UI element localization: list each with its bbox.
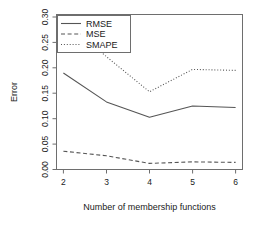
line-chart: 0.00 0.05 0.10 0.15 0.20 0.25 0.30 Error… (0, 0, 259, 226)
chart-screenshot: 0.00 0.05 0.10 0.15 0.20 0.25 0.30 Error… (0, 0, 259, 226)
x-axis-tick-labels: 2 3 4 5 6 (61, 177, 238, 187)
y-tick-label: 0.30 (40, 8, 50, 25)
x-tick-label: 4 (147, 177, 152, 187)
series-line-mse (63, 151, 235, 163)
y-axis-title: Error (9, 82, 19, 102)
x-tick-label: 6 (233, 177, 238, 187)
x-axis-title: Number of membership functions (83, 202, 216, 212)
y-tick-label: 0.10 (40, 110, 50, 127)
legend-label-rmse: RMSE (86, 19, 112, 29)
y-tick-label: 0.05 (40, 136, 50, 153)
y-axis-ticks (53, 17, 57, 170)
y-axis-tick-labels: 0.00 0.05 0.10 0.15 0.20 0.25 0.30 (40, 8, 50, 177)
x-tick-label: 5 (190, 177, 195, 187)
x-tick-label: 3 (104, 177, 109, 187)
x-axis-ticks (63, 170, 235, 174)
legend-label-smape: SMAPE (86, 40, 118, 50)
series-line-rmse (63, 73, 235, 117)
legend-label-mse: MSE (86, 29, 106, 39)
x-tick-label: 2 (61, 177, 66, 187)
legend: RMSE MSE SMAPE (58, 16, 131, 53)
y-tick-label: 0.20 (40, 59, 50, 76)
y-tick-label: 0.15 (40, 85, 50, 102)
y-tick-label: 0.00 (40, 161, 50, 178)
y-tick-label: 0.25 (40, 34, 50, 51)
